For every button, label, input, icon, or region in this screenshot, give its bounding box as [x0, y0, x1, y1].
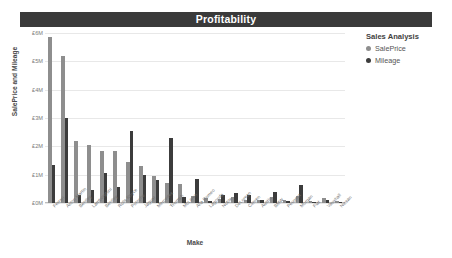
x-axis-label-cell: Austin	[254, 204, 267, 238]
bar-group	[149, 33, 162, 203]
bar-group	[162, 33, 175, 203]
bar-group	[280, 33, 293, 203]
x-axis-label-cell: Mercedes	[149, 204, 162, 238]
bar-group	[84, 33, 97, 203]
bar-group	[189, 33, 202, 203]
x-axis-label-cell: Nissan	[332, 204, 345, 238]
legend-item-label: SalePrice	[375, 45, 406, 52]
x-axis-label-cell: BMW	[267, 204, 280, 238]
bar-group	[136, 33, 149, 203]
plot-area	[45, 33, 345, 203]
legend-item[interactable]: Mileage	[366, 57, 450, 64]
legend-item-list: SalePriceMileage	[366, 45, 450, 64]
x-axis-label-cell: Noble	[215, 204, 228, 238]
bar-group	[332, 33, 345, 203]
x-axis-label-cell: Aston Martin	[58, 204, 71, 238]
bar-group	[175, 33, 188, 203]
bar-group	[110, 33, 123, 203]
y-axis-ticks: £0M£1M£2M£3M£4M£5M£6M	[25, 33, 43, 203]
x-axis-label-cell: Ferrari	[45, 204, 58, 238]
circle-marker	[366, 46, 371, 51]
x-axis-label-cell: Morgan	[293, 204, 306, 238]
y-axis-tick-label: £3M	[32, 115, 43, 121]
bar-group	[306, 33, 319, 203]
x-axis-label-cell: DeLorean	[228, 204, 241, 238]
bar-mileage[interactable]	[195, 179, 199, 203]
x-axis-label-cell: Jaguar	[136, 204, 149, 238]
bar-group	[97, 33, 110, 203]
bar-group	[45, 33, 58, 203]
bar-mileage[interactable]	[52, 165, 56, 203]
x-axis-label-cell: Vauxhall	[319, 204, 332, 238]
x-axis-label-cell: Porsche	[123, 204, 136, 238]
x-axis-labels: FerrariAston MartinBentleyLamborghiniBen…	[45, 204, 345, 238]
y-axis-tick-label: £1M	[32, 172, 43, 178]
x-axis-label-cell: Triumph	[162, 204, 175, 238]
bar-mileage[interactable]	[143, 175, 147, 203]
x-axis-label-cell: Lamborghini	[84, 204, 97, 238]
y-axis-tick-label: £0M	[32, 200, 43, 206]
x-axis-label-cell: McLaren	[175, 204, 188, 238]
bar-group	[228, 33, 241, 203]
x-axis-label-cell: Peugeot	[280, 204, 293, 238]
chart-page: Profitability Sales Analysis SalePriceMi…	[0, 0, 452, 258]
page-title: Profitability	[196, 14, 256, 25]
x-axis-label-cell: Citroen	[241, 204, 254, 238]
bar-mileage[interactable]	[65, 118, 69, 203]
bar-series-container	[45, 33, 345, 203]
bar-group	[202, 33, 215, 203]
bar-group	[71, 33, 84, 203]
x-axis-label-cell: Alfa Romeo	[189, 204, 202, 238]
x-axis-label-cell: Rolls Royce	[110, 204, 123, 238]
legend-item[interactable]: SalePrice	[366, 45, 450, 52]
bar-group	[123, 33, 136, 203]
y-axis-tick-label: £4M	[32, 87, 43, 93]
x-axis-label-cell: Fiat	[306, 204, 319, 238]
bar-group	[293, 33, 306, 203]
y-axis-tick-label: £2M	[32, 143, 43, 149]
legend-item-label: Mileage	[375, 57, 400, 64]
x-axis-label-cell: Bentley	[71, 204, 84, 238]
x-axis-title: Make	[45, 239, 345, 246]
bar-group	[215, 33, 228, 203]
legend-title: Sales Analysis	[366, 33, 450, 41]
circle-marker	[366, 58, 371, 63]
bar-group	[241, 33, 254, 203]
bar-group	[319, 33, 332, 203]
bar-group	[254, 33, 267, 203]
bar-group	[58, 33, 71, 203]
bar-group	[267, 33, 280, 203]
bar-mileage[interactable]	[156, 180, 160, 203]
y-axis-tick-label: £5M	[32, 58, 43, 64]
chart-title-bar: Profitability	[20, 12, 432, 27]
x-axis-label-cell: Lagonda	[202, 204, 215, 238]
chart-legend: Sales Analysis SalePriceMileage	[366, 33, 450, 69]
x-axis-label-cell: Bentley	[97, 204, 110, 238]
y-axis-title: SalePrice and Mileage	[11, 32, 18, 132]
y-axis-tick-label: £6M	[32, 30, 43, 36]
